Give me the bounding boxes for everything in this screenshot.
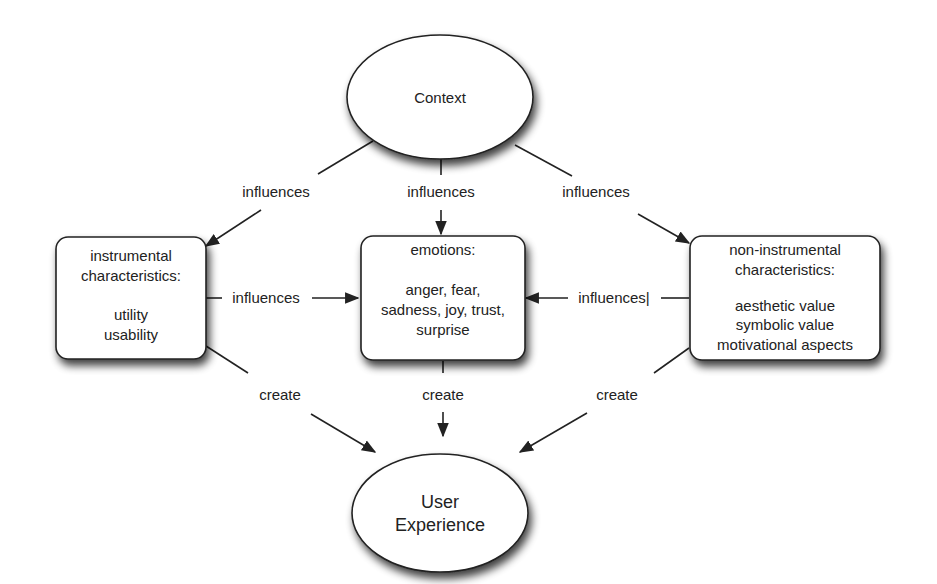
edge-label-influences: influences [407, 183, 475, 200]
node-non-instrumental-characteristics: non-instrumental characteristics: aesthe… [690, 236, 880, 360]
node-title-line: emotions: [410, 241, 475, 258]
node-item: motivational aspects [717, 336, 853, 353]
ux-model-diagram: influences influences influences influen… [0, 0, 937, 584]
edge-instrumental-to-ux: create [206, 346, 375, 452]
edge-context-to-emotions: influences [407, 159, 475, 234]
node-title-line: characteristics: [81, 267, 181, 284]
node-ux-label-line: Experience [395, 515, 485, 535]
node-instrumental-characteristics: instrumental characteristics: utility us… [56, 237, 206, 359]
edge-label-create: create [259, 386, 301, 403]
node-item: usability [104, 326, 159, 343]
edge-label-create: create [596, 386, 638, 403]
edge-label-influences: influences [242, 183, 310, 200]
node-item: aesthetic value [735, 297, 835, 314]
edge-label-influences: influences| [578, 289, 649, 306]
edge-non-instrumental-to-ux: create [520, 348, 689, 452]
node-item: utility [114, 306, 149, 323]
node-item: sadness, joy, trust, [381, 301, 505, 318]
edge-instrumental-to-emotions: influences [206, 289, 358, 306]
node-item: surprise [416, 321, 469, 338]
node-item: symbolic value [736, 316, 834, 333]
node-ux-label-line: User [421, 492, 459, 512]
node-title-line: non-instrumental [729, 241, 841, 258]
node-emotions: emotions: anger, fear, sadness, joy, tru… [361, 236, 525, 360]
node-title-line: characteristics: [735, 261, 835, 278]
node-context: Context [347, 35, 533, 159]
edge-emotions-to-ux: create [422, 361, 464, 436]
node-context-label: Context [414, 89, 467, 106]
edge-label-influences: influences [562, 183, 630, 200]
edge-non-instrumental-to-emotions: influences| [526, 289, 689, 306]
node-user-experience: User Experience [352, 454, 528, 572]
edge-label-influences: influences [232, 289, 300, 306]
node-item: anger, fear, [405, 281, 480, 298]
edge-context-to-non-instrumental: influences [515, 145, 689, 243]
edge-context-to-instrumental: influences [206, 141, 373, 246]
node-title-line: instrumental [90, 247, 172, 264]
edge-label-create: create [422, 386, 464, 403]
